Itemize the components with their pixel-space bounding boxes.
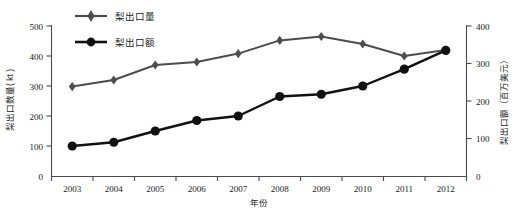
series-value (68, 46, 451, 151)
right-axis-title: 梨出口额（百万美元） (499, 55, 509, 145)
left-tick-label-300: 300 (30, 82, 44, 92)
right-tick-label-400: 400 (476, 22, 490, 32)
data-point-value (400, 65, 409, 74)
left-axis: 500 400 300 200 100 0 梨出口数量( kt ) (5, 22, 52, 182)
x-tick-label: 2007 (229, 184, 248, 194)
x-tick-label: 2006 (188, 184, 207, 194)
x-tick-label: 2010 (354, 184, 373, 194)
left-tick-label-400: 400 (30, 52, 44, 62)
data-point-volume (318, 32, 325, 41)
x-tick-label: 2009 (312, 184, 331, 194)
x-tick-label: 2004 (105, 184, 124, 194)
pear-export-chart: 梨出口量 梨出口额 500 400 300 200 100 0 梨出口数量( k… (0, 0, 519, 220)
data-point-volume (193, 57, 200, 66)
right-tick-label-0: 0 (476, 172, 481, 182)
data-point-volume (110, 75, 117, 84)
x-axis-title: 年份 (250, 198, 268, 208)
x-tick-label: 2008 (271, 184, 290, 194)
left-tick-label-0: 0 (39, 172, 44, 182)
x-axis-tick-labels: 2003200420052006200720082009201020112012 (63, 184, 455, 194)
x-axis: 2003200420052006200720082009201020112012… (52, 176, 467, 208)
data-point-value (192, 116, 201, 125)
legend-item-volume: 梨出口量 (75, 10, 155, 22)
legend-item-value: 梨出口额 (75, 37, 155, 48)
data-point-value (109, 138, 118, 147)
data-point-value (68, 141, 77, 150)
chart-legend: 梨出口量 梨出口额 (75, 10, 155, 48)
data-point-value (441, 46, 450, 55)
right-tick-label-200: 200 (476, 97, 490, 107)
legend-label-volume: 梨出口量 (115, 11, 155, 22)
markers-value (68, 46, 451, 151)
legend-label-value: 梨出口额 (115, 37, 155, 48)
right-tick-label-300: 300 (476, 59, 490, 69)
data-point-volume (359, 39, 366, 48)
left-tick-label-500: 500 (30, 22, 44, 32)
left-tick-label-100: 100 (30, 142, 44, 152)
x-tick-label: 2005 (146, 184, 165, 194)
x-tick-label: 2003 (63, 184, 82, 194)
x-tick-label: 2012 (437, 184, 455, 194)
right-axis: 400 300 200 100 0 梨出口额（百万美元） (467, 22, 510, 182)
legend-marker-volume-icon (88, 10, 95, 22)
data-point-volume (69, 82, 76, 91)
data-point-volume (276, 36, 283, 45)
right-tick-label-100: 100 (476, 134, 490, 144)
left-axis-title: 梨出口数量( kt ) (5, 69, 15, 131)
data-point-value (151, 126, 160, 135)
data-point-value (275, 92, 284, 101)
left-tick-label-200: 200 (30, 112, 44, 122)
data-point-volume (235, 49, 242, 58)
chart-svg: 梨出口量 梨出口额 500 400 300 200 100 0 梨出口数量( k… (0, 0, 519, 220)
data-point-value (358, 81, 367, 90)
legend-marker-value-icon (87, 38, 96, 47)
data-point-volume (152, 60, 159, 69)
data-point-value (234, 111, 243, 120)
x-tick-label: 2011 (395, 184, 413, 194)
line-path-value (72, 50, 446, 146)
data-point-value (317, 90, 326, 99)
data-point-volume (401, 51, 408, 60)
